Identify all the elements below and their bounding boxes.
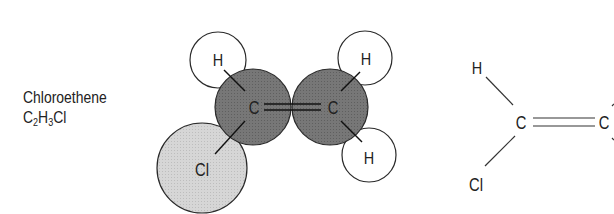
struct-bond-c-cl xyxy=(485,136,515,166)
struct-bond-c-h xyxy=(486,77,513,105)
structural-formula: H C Cl C xyxy=(469,59,614,194)
label-chlorine: Cl xyxy=(195,160,209,180)
label-carbon-1: C xyxy=(249,98,260,118)
space-filling-model: H H H Cl C C xyxy=(157,31,396,213)
molecule-diagrams: H H H Cl C C H C Cl C xyxy=(0,0,614,214)
struct-label-c2: C xyxy=(599,113,610,133)
struct-label-h: H xyxy=(472,59,482,77)
struct-label-c1: C xyxy=(516,113,527,133)
label-hydrogen-1: H xyxy=(213,51,223,69)
struct-label-cl: Cl xyxy=(469,175,483,195)
label-hydrogen-3: H xyxy=(364,149,374,167)
label-hydrogen-2: H xyxy=(361,50,371,68)
label-carbon-2: C xyxy=(328,98,339,118)
